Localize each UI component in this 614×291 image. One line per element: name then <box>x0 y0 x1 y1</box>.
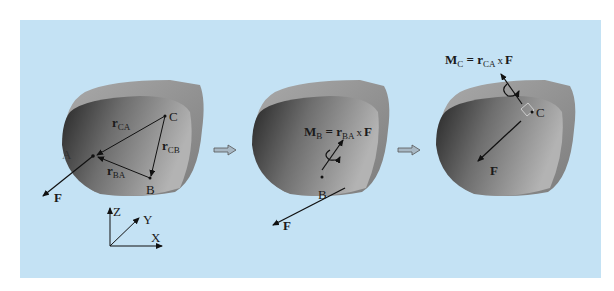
label-force-3: F <box>490 163 498 178</box>
y-axis <box>110 218 139 246</box>
moment-transfer-diagram: C B A rCA rCB rBA F Z Y X B F MB = rBAxF… <box>0 0 614 291</box>
label-point-b-2: B <box>318 187 327 202</box>
label-point-a: A <box>62 147 72 162</box>
point-c-marker-3 <box>531 111 534 114</box>
point-b-marker <box>149 177 152 180</box>
rigid-body-1 <box>62 80 204 196</box>
label-axis-y: Y <box>143 212 153 227</box>
label-force-2: F <box>283 218 291 233</box>
coordinate-axes: Z Y X <box>110 204 162 246</box>
point-b-marker-2 <box>321 176 324 179</box>
rigid-body-3 <box>436 80 575 196</box>
transition-arrow-1 <box>214 145 236 155</box>
transition-arrow-2 <box>398 145 420 155</box>
equation-moment-c: MC = rCAxF <box>445 52 513 69</box>
label-point-b: B <box>146 182 155 197</box>
label-point-c: C <box>169 109 178 124</box>
label-point-c-3: C <box>536 105 545 120</box>
label-axis-x: X <box>151 230 161 245</box>
point-c-marker <box>164 115 167 118</box>
label-force-1: F <box>54 190 62 205</box>
label-axis-z: Z <box>113 204 121 219</box>
